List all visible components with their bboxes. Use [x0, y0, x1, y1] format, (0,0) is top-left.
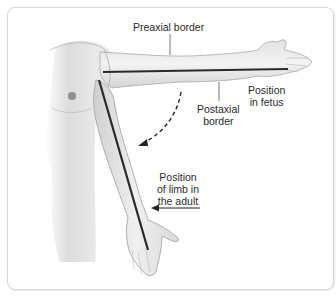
adult-position-label: Position of limb in the adult [157, 171, 199, 207]
rotation-arrow [145, 92, 181, 142]
nipple [68, 92, 76, 100]
fetal-arm [100, 40, 312, 88]
limb-rotation-illustration [0, 0, 336, 301]
rotation-arrowhead-icon [138, 139, 148, 146]
preaxial-border-label: Preaxial border [133, 21, 204, 33]
fetus-position-label: Position in fetus [248, 84, 285, 108]
postaxial-border-label: Postaxial border [197, 103, 240, 127]
adult-axis-line [99, 80, 148, 250]
